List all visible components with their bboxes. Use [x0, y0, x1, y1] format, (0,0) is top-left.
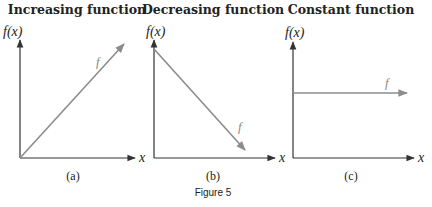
y-axis-label: f(x)	[3, 24, 23, 40]
figure-5-diagram: Increasing function f(x) x f (a) Decreas…	[0, 0, 432, 207]
x-axis-label: x	[278, 150, 286, 165]
panel-sub-label: (b)	[206, 169, 220, 183]
function-label: f	[385, 75, 391, 90]
y-axis-label: f(x)	[285, 25, 305, 41]
panel-increasing: Increasing function f(x) x f (a)	[3, 2, 146, 183]
panel-title: Constant function	[288, 2, 415, 17]
x-axis-label: x	[138, 150, 146, 165]
panel-title: Increasing function	[8, 2, 146, 17]
figure-caption: Figure 5	[195, 187, 232, 198]
function-line-increasing	[20, 44, 124, 158]
function-label: f	[238, 119, 244, 134]
y-axis-label: f(x)	[146, 24, 166, 40]
panel-sub-label: (c)	[344, 169, 357, 183]
function-label: f	[96, 54, 102, 69]
function-line-decreasing	[154, 49, 245, 150]
panel-title: Decreasing function	[142, 2, 284, 17]
panel-decreasing: Decreasing function f(x) x f (b)	[142, 2, 286, 183]
panel-sub-label: (a)	[66, 169, 79, 183]
panel-constant: Constant function f(x) x f (c)	[285, 2, 425, 183]
x-axis-label: x	[417, 150, 425, 165]
